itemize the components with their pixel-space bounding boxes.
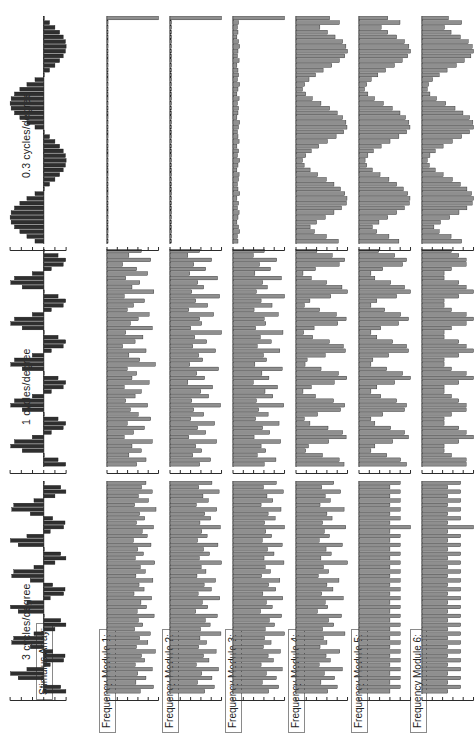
panel-row-stim-col-3 [9, 481, 67, 708]
panel-row-fm6-col-3 [420, 481, 476, 708]
panel-row-fm6-col-03 [420, 16, 476, 258]
panel-row-fm4-col-1 [294, 249, 350, 481]
panel-row-fm3-col-3 [231, 481, 287, 708]
panel-row-fm4-col-03 [294, 16, 350, 258]
panel-row-fm5-col-1 [357, 249, 413, 481]
panel-row-fm2-col-03 [168, 16, 224, 258]
panel-row-fm3-col-1 [231, 249, 287, 481]
panel-row-fm4-col-3 [294, 481, 350, 708]
panel-row-fm5-col-3 [357, 481, 413, 708]
panel-row-fm6-col-1 [420, 249, 476, 481]
panel-row-fm2-col-1 [168, 249, 224, 481]
panel-row-fm3-col-03 [231, 16, 287, 258]
panel-row-fm5-col-03 [357, 16, 413, 258]
panel-row-stim-col-03 [9, 16, 67, 258]
panel-row-fm1-col-3 [105, 481, 161, 708]
panel-row-stim-col-1 [9, 249, 67, 481]
panel-row-fm1-col-03 [105, 16, 161, 258]
panel-row-fm1-col-1 [105, 249, 161, 481]
panel-row-fm2-col-3 [168, 481, 224, 708]
